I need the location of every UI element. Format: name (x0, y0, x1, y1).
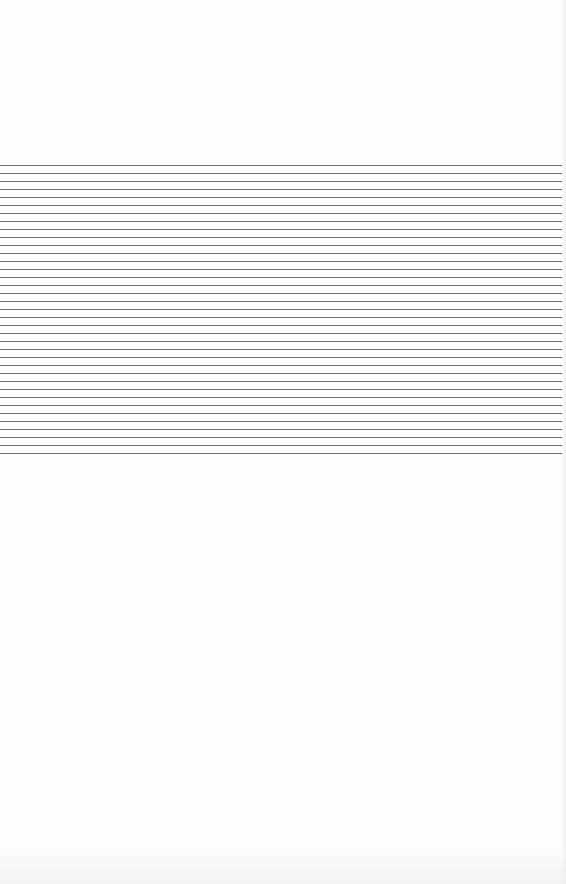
lined-paper-sheet (0, 0, 566, 884)
ruled-line (0, 429, 564, 430)
ruled-line (0, 341, 564, 342)
ruled-line (0, 333, 564, 334)
ruled-line (0, 293, 564, 294)
ruled-line (0, 261, 564, 262)
ruled-line (0, 349, 564, 350)
ruled-line (0, 229, 564, 230)
ruled-line (0, 309, 564, 310)
ruled-line (0, 413, 564, 414)
ruled-line (0, 205, 564, 206)
ruled-line (0, 405, 564, 406)
ruled-line (0, 253, 564, 254)
ruled-line (0, 437, 564, 438)
ruled-line (0, 269, 564, 270)
ruled-line (0, 381, 564, 382)
ruled-line (0, 421, 564, 422)
ruled-line (0, 389, 564, 390)
ruled-line (0, 189, 564, 190)
ruled-line (0, 165, 564, 166)
ruled-line (0, 285, 564, 286)
ruled-line (0, 365, 564, 366)
ruled-line (0, 397, 564, 398)
ruled-line (0, 453, 564, 454)
ruled-line (0, 237, 564, 238)
ruled-line (0, 181, 564, 182)
ruled-line (0, 277, 564, 278)
ruled-line (0, 317, 564, 318)
paper-bottom-texture (0, 844, 566, 884)
ruled-line (0, 245, 564, 246)
ruled-line (0, 301, 564, 302)
ruled-line (0, 173, 564, 174)
ruled-line (0, 221, 564, 222)
paper-right-edge (562, 0, 566, 884)
ruled-line (0, 357, 564, 358)
ruled-line (0, 373, 564, 374)
ruled-line (0, 325, 564, 326)
ruled-line (0, 213, 564, 214)
ruled-line (0, 445, 564, 446)
ruled-line (0, 197, 564, 198)
